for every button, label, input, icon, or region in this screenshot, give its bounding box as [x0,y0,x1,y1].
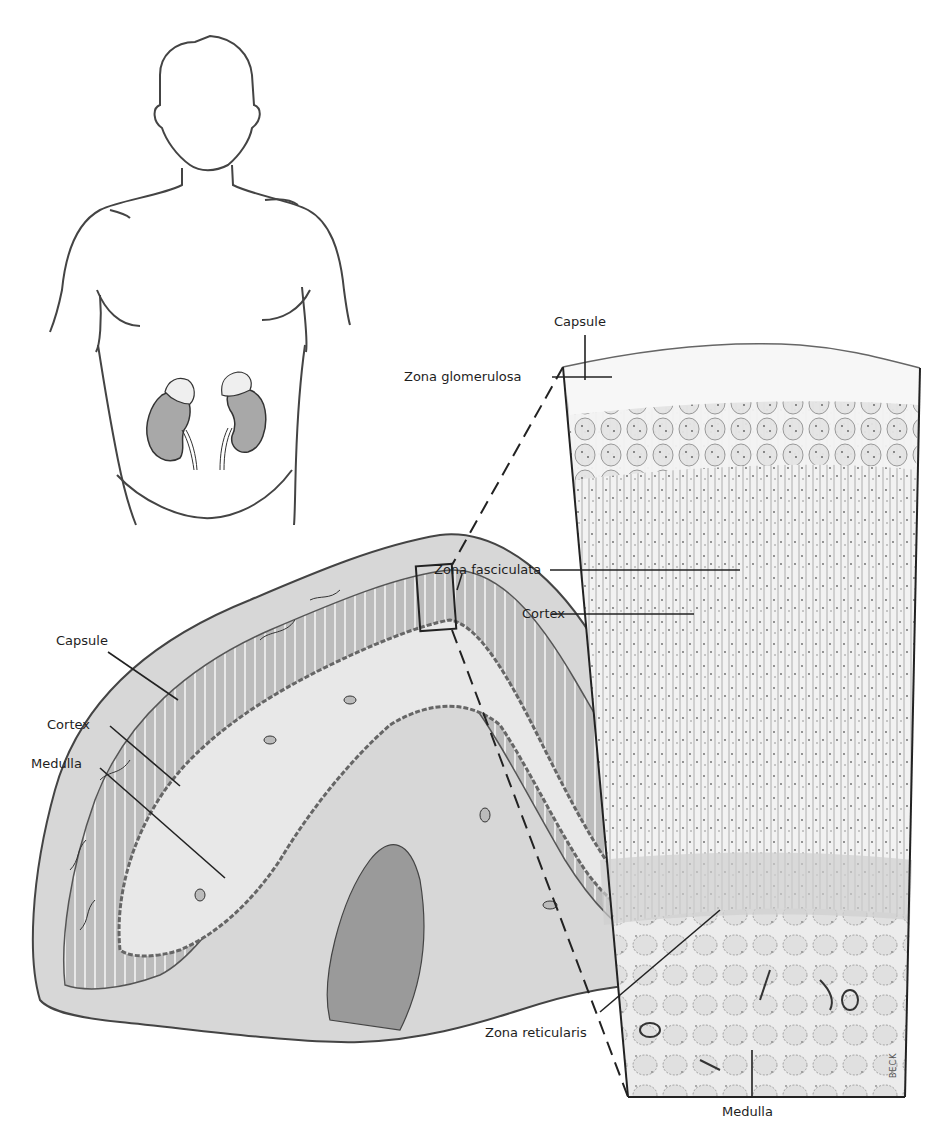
kidneys-illustration [147,372,266,470]
body-outline [50,36,350,525]
artist-signature: BECK [889,1053,898,1078]
label-section-medulla: Medulla [31,757,82,770]
label-histology-medulla: Medulla [722,1105,773,1118]
label-zona-glomerulosa: Zona glomerulosa [404,370,522,383]
label-zona-reticularis: Zona reticularis [485,1026,587,1039]
label-section-cortex: Cortex [47,718,90,731]
label-section-capsule: Capsule [56,634,108,647]
label-histology-capsule: Capsule [554,315,606,328]
label-zona-fasciculata: Zona fasciculata [434,563,541,576]
label-histology-cortex: Cortex [522,607,565,620]
